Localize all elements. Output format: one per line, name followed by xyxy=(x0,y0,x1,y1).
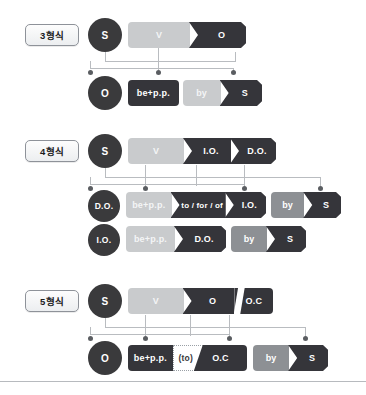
connector-line xyxy=(196,165,197,186)
passive-agent-pattern-5: S xyxy=(288,345,328,371)
passive-agent-pattern-4-row-1: S xyxy=(303,192,341,218)
active-verb-pattern-3: V xyxy=(128,22,190,48)
connector-line xyxy=(190,315,191,336)
section-label-pattern-3: 3형식 xyxy=(25,24,79,46)
active-verb-pattern-5: V xyxy=(128,288,184,314)
active-verb-pattern-4: V xyxy=(128,138,184,164)
connector-line xyxy=(90,334,230,335)
connector-node xyxy=(231,70,236,75)
footer-divider xyxy=(0,381,366,382)
active-clause-pattern-5: V O O.C xyxy=(128,288,273,314)
passive-direct-object-pattern-4-row-2: D.O. xyxy=(174,226,226,252)
connector-line xyxy=(105,61,235,62)
connector-line xyxy=(158,48,159,70)
active-subject-circle-pattern-4: S xyxy=(88,134,122,168)
connector-node xyxy=(88,70,93,75)
passive-subject-circle-pattern-4-row-1: D.O. xyxy=(88,190,120,222)
connector-line xyxy=(90,68,234,69)
passive-indirect-object-pattern-4-row-1: I.O. xyxy=(225,192,266,218)
connector-node xyxy=(242,186,247,191)
connector-line xyxy=(235,52,236,62)
connector-line xyxy=(320,177,321,186)
active-direct-object-pattern-4: D.O. xyxy=(230,138,276,164)
connector-node xyxy=(143,186,148,191)
passive-bepp-pattern-4-row-1: be+p.p. xyxy=(126,192,172,218)
passive-clause-pattern-4-row-1: be+p.p. to / for / of I.O. by S xyxy=(126,192,341,218)
passive-object-complement-pattern-5: O.C xyxy=(194,345,247,371)
connector-node xyxy=(156,70,161,75)
connector-node xyxy=(227,336,232,341)
passive-subject-circle-pattern-3: O xyxy=(88,76,122,110)
passive-subject-circle-pattern-4-row-2: I.O. xyxy=(88,224,120,256)
passive-clause-pattern-5: be+p.p. (to) O.C by S xyxy=(128,345,328,371)
connector-line xyxy=(105,177,320,178)
connector-node xyxy=(88,186,93,191)
connector-line xyxy=(145,315,146,336)
passive-by-pattern-5: by xyxy=(253,345,289,371)
connector-line xyxy=(244,165,245,186)
passive-by-pattern-4-row-1: by xyxy=(271,192,304,218)
diagram-canvas: 3형식 S V O O be+p.p. by S 4형식 S V I.O. D.… xyxy=(0,0,366,395)
connector-line xyxy=(305,327,306,336)
connector-node xyxy=(88,336,93,341)
passive-subject-circle-pattern-5: O xyxy=(88,341,122,375)
connector-line xyxy=(229,315,230,336)
active-clause-pattern-3: V O xyxy=(128,22,246,48)
passive-agent-pattern-4-row-2: S xyxy=(266,226,306,252)
connector-node xyxy=(318,186,323,191)
active-subject-circle-pattern-3: S xyxy=(88,18,122,52)
passive-clause-pattern-4-row-2: be+p.p. D.O. by S xyxy=(126,226,306,252)
connector-line xyxy=(105,327,305,328)
passive-by-pattern-4-row-2: by xyxy=(231,226,267,252)
passive-bepp-pattern-4-row-2: be+p.p. xyxy=(126,226,175,252)
connector-line xyxy=(90,184,245,185)
active-indirect-object-pattern-4: I.O. xyxy=(183,138,231,164)
section-label-pattern-5: 5형식 xyxy=(25,290,79,312)
active-subject-circle-pattern-5: S xyxy=(88,284,122,318)
passive-clause-pattern-3: be+p.p. by S xyxy=(128,80,262,106)
active-object-pattern-5: O xyxy=(183,288,235,314)
passive-bepp-pattern-5: be+p.p. xyxy=(128,345,173,371)
connector-node xyxy=(303,336,308,341)
section-label-pattern-4: 4형식 xyxy=(25,140,79,162)
active-clause-pattern-4: V I.O. D.O. xyxy=(128,138,276,164)
connector-node xyxy=(143,336,148,341)
active-object-pattern-3: O xyxy=(189,22,246,48)
passive-by-pattern-3: by xyxy=(183,80,221,106)
passive-preposition-pattern-4-row-1: to / for / of xyxy=(171,192,226,218)
passive-bepp-pattern-3: be+p.p. xyxy=(128,80,179,106)
passive-agent-pattern-3: S xyxy=(220,80,262,106)
active-object-complement-pattern-5: O.C xyxy=(235,288,273,314)
connector-line xyxy=(145,165,146,186)
